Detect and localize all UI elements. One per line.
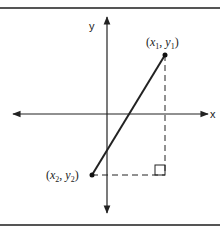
coordinate-diagram: x y (x1, y1) (x2, y2) bbox=[0, 0, 220, 228]
diagram-canvas: x y (x1, y1) (x2, y2) bbox=[0, 0, 220, 228]
line-segment bbox=[92, 55, 165, 175]
point-1 bbox=[163, 53, 168, 58]
point-1-label: (x1, y1) bbox=[146, 35, 179, 51]
right-angle-marker bbox=[155, 165, 165, 175]
point-2-label: (x2, y2) bbox=[46, 168, 79, 184]
y-axis-label: y bbox=[89, 20, 95, 32]
point-2 bbox=[90, 173, 95, 178]
x-axis-label: x bbox=[210, 108, 216, 120]
